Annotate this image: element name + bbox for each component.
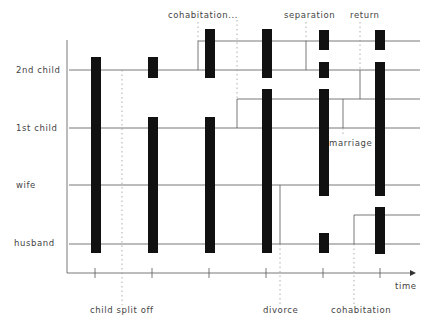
- event-label-return: return: [350, 10, 380, 20]
- row-label-husband: husband: [14, 238, 55, 248]
- event-label-divorce: divorce: [263, 305, 298, 315]
- lifeline-husband-partner: [354, 215, 420, 244]
- row-label-wife: wife: [16, 180, 36, 190]
- event-label-marriage: marriage: [329, 138, 372, 148]
- row-label-2nd-child: 2nd child: [16, 65, 60, 75]
- event-label-cohabitation-top: cohabitation...: [168, 10, 238, 20]
- event-label-child-split-off: child split off: [90, 305, 154, 315]
- lifeline-2nd-child-partner: [198, 41, 420, 70]
- row-label-1st-child: 1st child: [16, 123, 57, 133]
- household-timeline-diagram: 2nd child 1st child wife husband cohabit…: [0, 0, 430, 325]
- event-label-cohabitation-bottom: cohabitation: [331, 305, 391, 315]
- event-label-separation: separation: [284, 10, 335, 20]
- x-axis-arrow-icon: [410, 270, 416, 276]
- x-axis-label: time: [395, 281, 417, 291]
